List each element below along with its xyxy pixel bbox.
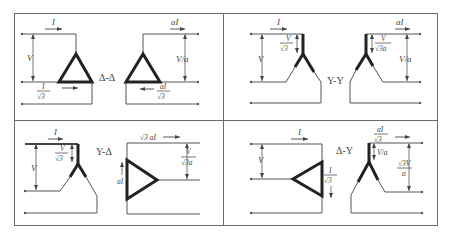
delta-winding-primary (59, 54, 92, 82)
connection-label-wye-wye: Y-Y (327, 75, 344, 86)
winding-current-numerator: I (328, 166, 332, 175)
secondary-phase-voltage-label: V/a (377, 148, 388, 157)
voltage-denominator: √3a (181, 158, 193, 167)
panel-delta-wye: I V I √3 Δ-Y aI √3 V/a √3V a (250, 125, 423, 214)
connection-label-wye-delta: Y-Δ (96, 146, 112, 157)
panel-delta-delta: I V I √3 Δ-Δ aI V/a aI √3 (21, 17, 199, 105)
phase-voltage-numerator: V (381, 34, 387, 43)
panel-wye-delta: I V V √3 Y-Δ √3 aI aI V √3a (24, 127, 200, 214)
primary-voltage-label: V (258, 155, 265, 165)
delta-winding-secondary (127, 160, 157, 199)
primary-wires (250, 143, 322, 214)
secondary-line-current-label: aI (396, 17, 405, 27)
voltage-numerator: √3V (398, 159, 412, 168)
secondary-voltage-label: V/a (176, 54, 189, 64)
secondary-current-numerator: aI (377, 125, 384, 134)
winding-current-numerator: aI (160, 82, 167, 91)
primary-voltage-label: V (258, 54, 265, 64)
panel-wye-wye: I V V √3 Y-Y aI V/a V √3a (250, 17, 421, 104)
delta-winding-secondary (126, 54, 160, 82)
primary-wires (21, 33, 92, 105)
delta-winding-primary (293, 162, 322, 196)
winding-current-denominator: √3 (324, 176, 332, 185)
winding-current-denominator: √3 (37, 92, 45, 101)
secondary-winding-current-label: aI (117, 177, 124, 186)
phase-voltage-denominator: √3 (280, 44, 288, 53)
primary-line-current-label: I (297, 127, 302, 137)
phase-voltage-numerator: V (60, 144, 66, 153)
phase-voltage-denominator: √3 (55, 154, 63, 163)
phase-voltage-numerator: V (286, 34, 292, 43)
connection-label-delta-delta: Δ-Δ (99, 72, 116, 83)
winding-current-denominator: √3 (157, 92, 165, 101)
secondary-voltage-label: V/a (399, 54, 412, 64)
secondary-line-current-label: √3 aI (140, 133, 156, 142)
phase-voltage-denominator: √3a (375, 44, 387, 53)
connection-label-delta-wye: Δ-Y (336, 145, 353, 156)
primary-line-current-label: I (51, 17, 56, 27)
transformer-connections-diagram: I V I √3 Δ-Δ aI V/a aI √3 (0, 0, 450, 236)
winding-current-numerator: I (41, 82, 45, 91)
voltage-denominator: a (402, 169, 406, 178)
primary-voltage-label: V (31, 163, 38, 173)
primary-line-current-label: I (276, 17, 281, 27)
voltage-numerator: V (186, 147, 192, 156)
secondary-line-current-label: aI (171, 17, 180, 27)
primary-line-current-label: I (53, 127, 58, 137)
secondary-current-denominator: √3 (374, 135, 382, 144)
